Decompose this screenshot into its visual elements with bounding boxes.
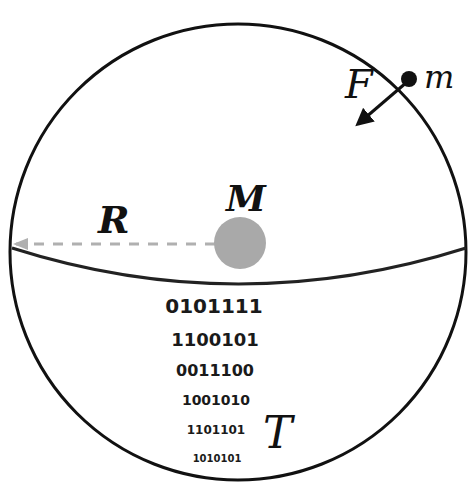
test-mass-label: m bbox=[424, 58, 454, 96]
force-label: F bbox=[344, 61, 374, 107]
central-mass-label: M bbox=[224, 177, 267, 219]
sphere-diagram: F m M R T 0101111 1100101 0011100 100101… bbox=[0, 0, 469, 500]
binary-line: 0101111 bbox=[165, 294, 262, 318]
binary-data: 0101111 1100101 0011100 1001010 1101101 … bbox=[165, 294, 262, 464]
temperature-label: T bbox=[263, 407, 296, 458]
binary-line: 1010101 bbox=[193, 453, 242, 464]
binary-line: 1100101 bbox=[171, 329, 259, 350]
radius-label: R bbox=[97, 197, 130, 242]
binary-line: 1001010 bbox=[182, 392, 250, 408]
central-mass bbox=[214, 217, 266, 269]
binary-line: 1101101 bbox=[187, 423, 245, 437]
binary-line: 0011100 bbox=[176, 361, 254, 380]
